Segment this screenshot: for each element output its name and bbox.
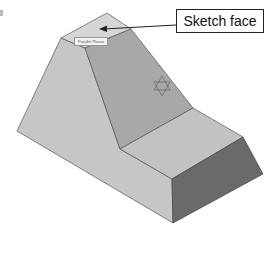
sketch-face-callout: Sketch face [176,9,264,33]
solid-model-drawing [0,0,273,253]
face-tooltip: Parallel Planar [74,37,108,46]
